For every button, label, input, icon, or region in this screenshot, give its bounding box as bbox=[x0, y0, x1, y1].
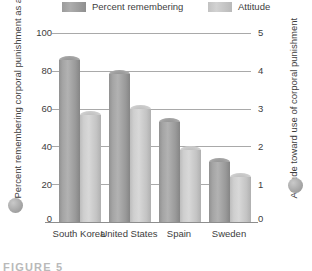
gridline-80 bbox=[52, 71, 251, 72]
bar-body bbox=[59, 60, 80, 222]
y-axis-right-tick-5: 5 bbox=[258, 28, 278, 38]
right-axis-dot-icon bbox=[288, 178, 303, 193]
gridline-100 bbox=[52, 33, 251, 34]
y-axis-right-tick-4: 4 bbox=[258, 66, 278, 76]
figure-container: Percent remembering Attitude 100 80 60 4… bbox=[0, 0, 312, 271]
legend-label-attitude: Attitude bbox=[238, 2, 270, 12]
y-axis-left-tick-20: 20 bbox=[22, 180, 52, 190]
gridline-60 bbox=[52, 109, 251, 110]
bar-south-korea-attitude bbox=[80, 111, 101, 222]
legend-item-attitude: Attitude bbox=[208, 2, 270, 12]
legend-swatch-attitude-icon bbox=[208, 2, 232, 12]
legend-swatch-percent-remembering-icon bbox=[62, 2, 86, 12]
bar-spain-attitude bbox=[180, 146, 201, 222]
y-axis-left-tick-100: 100 bbox=[22, 28, 52, 38]
bar-united-states-attitude bbox=[130, 105, 151, 222]
legend-label-percent-remembering: Percent remembering bbox=[92, 2, 183, 12]
x-axis-label-sweden: Sweden bbox=[199, 228, 259, 239]
bar-body bbox=[159, 122, 180, 222]
bar-body bbox=[80, 115, 101, 222]
bar-sweden-attitude bbox=[230, 173, 251, 222]
bar-sweden-percent-remembering bbox=[209, 158, 230, 222]
left-axis-dot-icon bbox=[8, 198, 23, 213]
plot-area bbox=[52, 33, 251, 222]
y-axis-left-tick-40: 40 bbox=[22, 142, 52, 152]
y-axis-right-title: Attitude toward use of corporal punishme… bbox=[288, 49, 299, 199]
x-axis-baseline bbox=[45, 222, 258, 223]
bar-body bbox=[180, 150, 201, 222]
bar-body bbox=[109, 74, 130, 222]
bar-united-states-percent-remembering bbox=[109, 70, 130, 222]
y-axis-left-tick-60: 60 bbox=[22, 104, 52, 114]
bar-body bbox=[130, 109, 151, 222]
y-axis-left-title: Percent remembering corporal punishment … bbox=[12, 49, 23, 199]
y-axis-right-tick-2: 2 bbox=[258, 142, 278, 152]
bar-body bbox=[230, 177, 251, 222]
bar-body bbox=[209, 162, 230, 222]
legend-item-percent-remembering: Percent remembering bbox=[62, 2, 183, 12]
bar-south-korea-percent-remembering bbox=[59, 56, 80, 222]
bar-spain-percent-remembering bbox=[159, 118, 180, 222]
chart-legend: Percent remembering Attitude bbox=[0, 2, 312, 18]
y-axis-right-tick-1: 1 bbox=[258, 180, 278, 190]
figure-caption: FIGURE 5 bbox=[3, 261, 63, 271]
y-axis-left-tick-80: 80 bbox=[22, 66, 52, 76]
y-axis-right-tick-0: 0 bbox=[258, 214, 278, 224]
y-axis-right-tick-3: 3 bbox=[258, 104, 278, 114]
